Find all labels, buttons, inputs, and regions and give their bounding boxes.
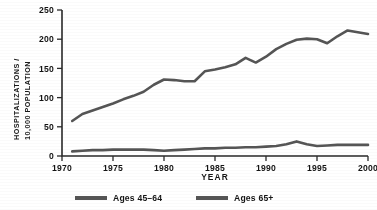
series-line-1 bbox=[72, 141, 368, 151]
x-tick-label: 1970 bbox=[52, 163, 72, 173]
series-line-0 bbox=[72, 30, 368, 121]
chart-legend: Ages 45–64Ages 65+ bbox=[75, 193, 274, 203]
y-axis-label-line1: HOSPITALIZATIONS / bbox=[12, 58, 21, 140]
x-axis-title: YEAR bbox=[201, 172, 229, 182]
x-tick-label: 1995 bbox=[307, 163, 327, 173]
y-tick-label: 100 bbox=[39, 93, 54, 103]
series-group bbox=[72, 30, 368, 151]
y-tick-label: 150 bbox=[39, 64, 54, 74]
hospitalizations-line-chart: HOSPITALIZATIONS / 10,000 POPULATION 050… bbox=[0, 0, 377, 210]
y-axis-label: HOSPITALIZATIONS / 10,000 POPULATION bbox=[12, 58, 32, 140]
legend-label-1: Ages 65+ bbox=[234, 193, 274, 203]
x-tick-group: 1970197519801985199019952000 bbox=[52, 156, 377, 173]
y-tick-label: 0 bbox=[49, 151, 54, 161]
chart-canvas: HOSPITALIZATIONS / 10,000 POPULATION 050… bbox=[0, 0, 377, 210]
x-tick-label: 1980 bbox=[154, 163, 174, 173]
legend-label-0: Ages 45–64 bbox=[113, 193, 162, 203]
x-tick-label: 2000 bbox=[358, 163, 377, 173]
y-tick-group: 050100150200250 bbox=[39, 5, 62, 161]
y-axis-label-line2: 10,000 POPULATION bbox=[23, 61, 32, 140]
x-tick-label: 1975 bbox=[103, 163, 123, 173]
y-tick-label: 50 bbox=[44, 122, 54, 132]
y-tick-label: 250 bbox=[39, 5, 54, 15]
y-tick-label: 200 bbox=[39, 34, 54, 44]
x-tick-label: 1990 bbox=[256, 163, 276, 173]
axis-lines bbox=[62, 10, 368, 156]
